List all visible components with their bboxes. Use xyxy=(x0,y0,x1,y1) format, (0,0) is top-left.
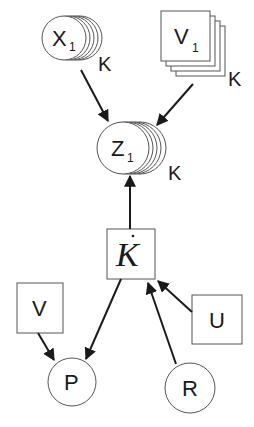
x1-label: X xyxy=(52,26,67,51)
v1-subscript: 1 xyxy=(192,41,199,55)
u-label: U xyxy=(209,308,225,333)
edge-u-to-kdot xyxy=(158,281,192,312)
v1-label: V xyxy=(174,24,189,49)
z1-subscript: 1 xyxy=(127,151,134,165)
x1-plate-label: K xyxy=(98,53,112,75)
node-p: P xyxy=(48,358,96,406)
edge-v-to-p xyxy=(38,333,54,360)
z1-label: Z xyxy=(111,136,124,161)
edge-kdot-to-p xyxy=(86,279,121,359)
x1-subscript: 1 xyxy=(69,40,76,54)
edge-x1-to-z1 xyxy=(81,70,108,121)
edge-v1-to-z1 xyxy=(157,84,193,125)
r-label: R xyxy=(182,376,198,401)
p-label: P xyxy=(64,370,79,395)
v-label: V xyxy=(32,296,47,321)
node-kdot: K xyxy=(107,229,155,279)
edge-r-to-kdot xyxy=(148,283,176,364)
node-z1: Z 1 K xyxy=(97,122,182,184)
node-x1: X 1 K xyxy=(42,16,112,75)
node-v1: V 1 K xyxy=(161,11,242,90)
node-v: V xyxy=(17,283,63,333)
v1-plate-label: K xyxy=(228,68,242,90)
node-r: R xyxy=(165,363,215,413)
z1-plate-label: K xyxy=(168,162,182,184)
graphical-model-diagram: X 1 K V 1 K Z 1 K K V U xyxy=(0,0,254,427)
node-u: U xyxy=(192,295,242,344)
kdot-label: K xyxy=(115,236,141,273)
